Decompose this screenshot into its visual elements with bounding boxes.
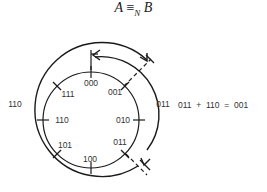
label-000: 000 [84,78,98,88]
label-110: 110 [55,115,69,125]
modular-wheel-diagram: 000 001 010 011 100 101 110 111 110 011 [0,0,267,192]
label-101: 101 [58,140,72,150]
label-010: 010 [116,115,130,125]
equation-text: 011 + 110 = 001 [178,100,248,110]
arrowhead-bottom-right [141,158,150,165]
label-001: 001 [108,87,122,97]
arrowhead-left [93,50,100,60]
outer-label-011: 011 [156,99,170,109]
label-100: 100 [83,154,97,164]
label-011: 011 [113,137,127,147]
label-111: 111 [62,89,75,99]
middle-arc [95,57,159,150]
outer-label-110: 110 [8,99,22,109]
